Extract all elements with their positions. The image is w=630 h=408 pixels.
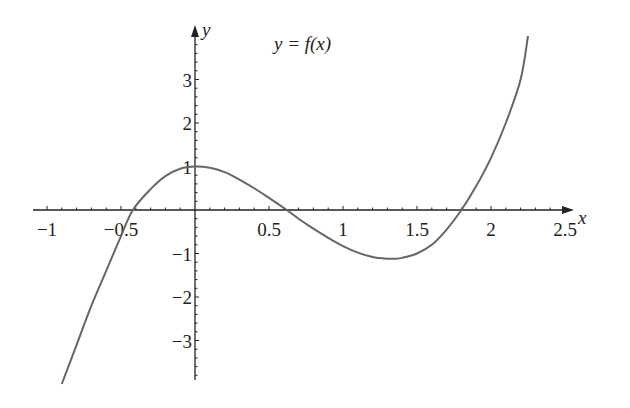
x-tick-label: 1: [338, 219, 348, 240]
x-tick-label: 1.5: [405, 219, 429, 240]
chart-title: y = f(x): [272, 33, 331, 55]
x-axis-arrow-icon: [562, 206, 574, 214]
x-tick-label: 2.5: [553, 219, 577, 240]
y-tick-label: −2: [172, 287, 192, 308]
y-tick-label: 2: [183, 113, 193, 134]
x-tick-label: 2: [486, 219, 496, 240]
y-tick-label: −1: [172, 244, 192, 265]
function-plot: −1−0.50.511.522.5−3−2−1123 x y y = f(x): [0, 0, 630, 408]
x-tick-label: 0.5: [257, 219, 281, 240]
y-axis-arrow-icon: [191, 25, 199, 37]
y-tick-label: −3: [172, 331, 192, 352]
y-tick-label: 3: [183, 70, 193, 91]
x-tick-label: −1: [37, 219, 57, 240]
x-axis-label: x: [577, 207, 587, 228]
y-axis-label: y: [200, 19, 211, 40]
axes: [33, 25, 574, 380]
